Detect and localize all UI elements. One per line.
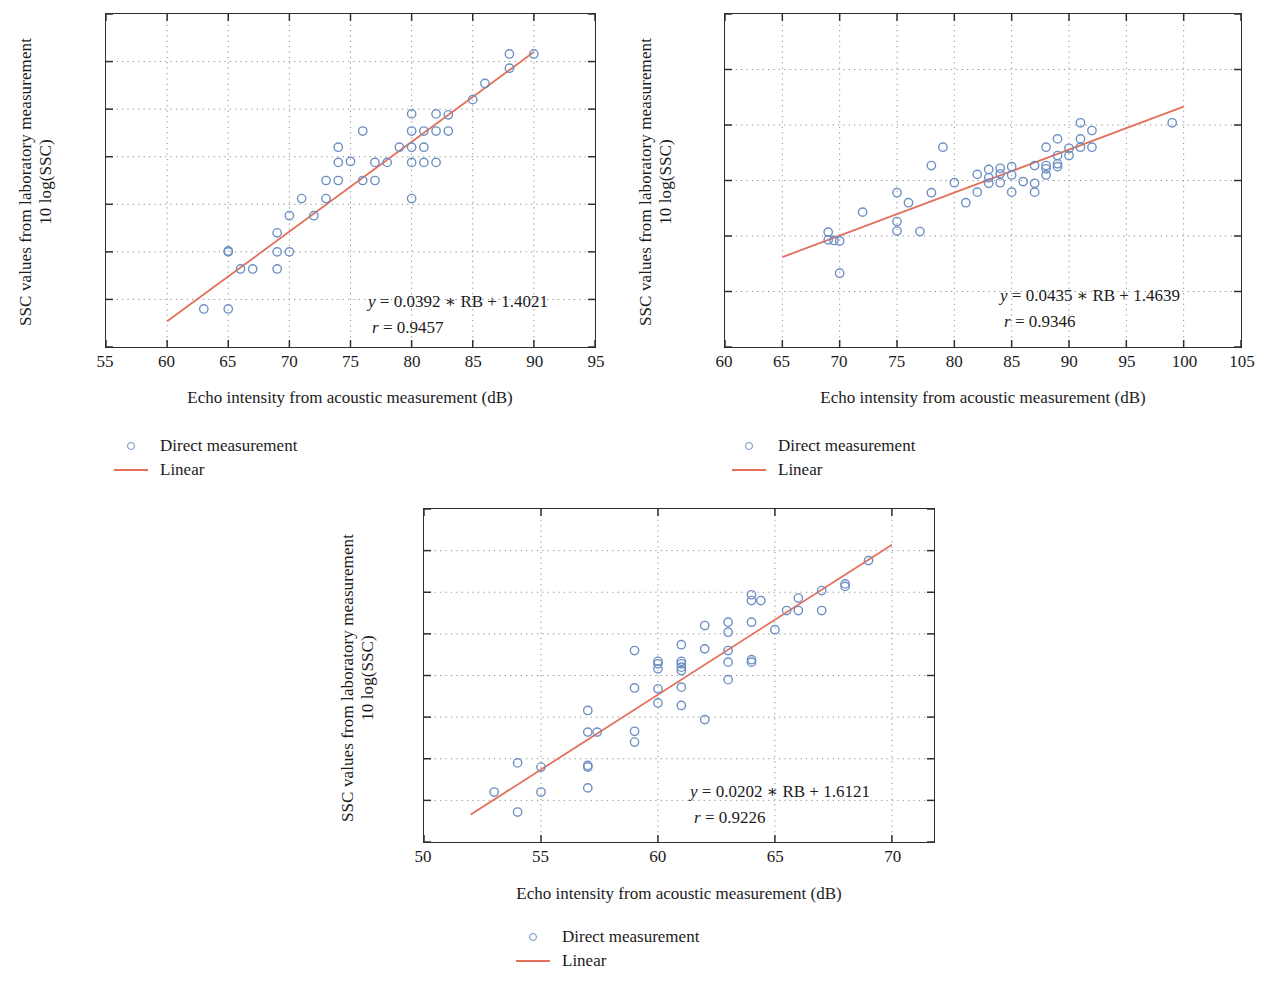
data-point	[1088, 126, 1096, 134]
panel-c-legend-label-linear: Linear	[554, 951, 606, 971]
panel-c-legend-item-linear[interactable]: Linear	[512, 949, 699, 973]
x-tick-label: 60	[649, 847, 666, 867]
x-tick-label: 70	[831, 352, 848, 372]
data-point	[407, 194, 415, 202]
x-tick-label: 75	[342, 352, 359, 372]
data-point	[701, 645, 709, 653]
panel-b-x-axis-label: Echo intensity from acoustic measurement…	[803, 388, 1163, 408]
data-points	[490, 556, 873, 816]
data-point	[371, 158, 379, 166]
data-point	[794, 606, 802, 614]
panel-c-y-axis-label-line1: SSC values from laboratory measurement	[338, 508, 358, 848]
x-tick-label: 55	[532, 847, 549, 867]
x-tick-label: 70	[281, 352, 298, 372]
data-point	[490, 788, 498, 796]
x-tick-label: 85	[465, 352, 482, 372]
data-point	[322, 176, 330, 184]
panel-a-correlation-variable: r	[372, 318, 379, 337]
panel-a-legend-item-linear[interactable]: Linear	[110, 458, 297, 482]
data-point	[747, 618, 755, 626]
panel-b-y-axis-label-line2: 10 log(SSC)	[656, 12, 676, 352]
data-point	[724, 618, 732, 626]
panel-c-equation-text: = 0.0202 ∗ RB + 1.6121	[698, 782, 870, 801]
data-point	[858, 208, 866, 216]
data-point	[1168, 119, 1176, 127]
data-point	[1076, 119, 1084, 127]
panel-a-equation-text: = 0.0392 ∗ RB + 1.4021	[376, 292, 548, 311]
x-tick-label: 65	[773, 352, 790, 372]
line-segment-icon	[728, 469, 770, 471]
panel-c-legend-item-direct[interactable]: Direct measurement	[512, 925, 699, 949]
panel-b-legend-label-direct: Direct measurement	[770, 436, 915, 456]
panel-a-y-axis-label-line2: 10 log(SSC)	[36, 12, 56, 352]
data-point	[513, 808, 521, 816]
panel-c-y-axis-label-line2: 10 log(SSC)	[358, 508, 378, 848]
data-point	[200, 305, 208, 313]
data-point	[297, 194, 305, 202]
data-point	[1042, 143, 1050, 151]
data-point	[334, 158, 342, 166]
x-tick-label: 100	[1172, 352, 1198, 372]
data-point	[1030, 179, 1038, 187]
panel-b-correlation-variable: r	[1004, 312, 1011, 331]
data-point	[420, 158, 428, 166]
data-point	[481, 79, 489, 87]
open-circle-icon	[110, 442, 152, 450]
panel-a-equation-line: y = 0.0392 ∗ RB + 1.4021	[368, 289, 548, 315]
panel-b-equation-variable: y	[1000, 286, 1008, 305]
data-points	[200, 50, 538, 313]
panel-a-legend: Direct measurement Linear	[110, 434, 297, 482]
panel-c-equation-variable: y	[690, 782, 698, 801]
x-tick-label: 80	[946, 352, 963, 372]
x-tick-label: 90	[1061, 352, 1078, 372]
data-point	[1030, 188, 1038, 196]
data-point	[893, 189, 901, 197]
data-point	[630, 646, 638, 654]
data-point	[432, 110, 440, 118]
x-tick-label: 80	[403, 352, 420, 372]
data-point	[724, 628, 732, 636]
data-point	[1076, 135, 1084, 143]
data-point	[835, 237, 843, 245]
data-point	[747, 591, 755, 599]
data-point	[273, 265, 281, 273]
data-point	[818, 606, 826, 614]
panel-a-legend-item-direct[interactable]: Direct measurement	[110, 434, 297, 458]
x-tick-label: 95	[588, 352, 605, 372]
data-point	[1053, 135, 1061, 143]
data-point	[973, 170, 981, 178]
x-tick-label: 85	[1003, 352, 1020, 372]
data-point	[630, 738, 638, 746]
data-point	[1007, 162, 1015, 170]
data-point	[724, 675, 732, 683]
panel-b-y-axis-label-line1: SSC values from laboratory measurement	[636, 12, 656, 352]
data-point	[724, 658, 732, 666]
data-point	[757, 596, 765, 604]
panel-b-correlation-line: r = 0.9346	[1000, 309, 1180, 335]
x-tick-label: 50	[415, 847, 432, 867]
data-point	[273, 229, 281, 237]
x-tick-label: 90	[526, 352, 543, 372]
panel-b-legend-label-linear: Linear	[770, 460, 822, 480]
x-tick-label: 75	[888, 352, 905, 372]
data-point	[939, 143, 947, 151]
data-point	[273, 248, 281, 256]
data-point	[1042, 171, 1050, 179]
panel-a-correlation-text: = 0.9457	[379, 318, 444, 337]
data-point	[322, 194, 330, 202]
panel-a-y-axis-label: SSC values from laboratory measurement 1…	[16, 12, 56, 352]
panel-b-legend-item-linear[interactable]: Linear	[728, 458, 915, 482]
data-point	[407, 143, 415, 151]
data-point	[420, 143, 428, 151]
data-point	[359, 127, 367, 135]
data-point	[835, 269, 843, 277]
data-point	[904, 199, 912, 207]
panel-b-legend-item-direct[interactable]: Direct measurement	[728, 434, 915, 458]
x-tick-label: 95	[1118, 352, 1135, 372]
data-point	[927, 189, 935, 197]
data-point	[1088, 143, 1096, 151]
regression-line	[782, 107, 1183, 257]
panel-a-y-axis-label-line1: SSC values from laboratory measurement	[16, 12, 36, 352]
x-tick-label: 65	[219, 352, 236, 372]
data-point	[444, 127, 452, 135]
